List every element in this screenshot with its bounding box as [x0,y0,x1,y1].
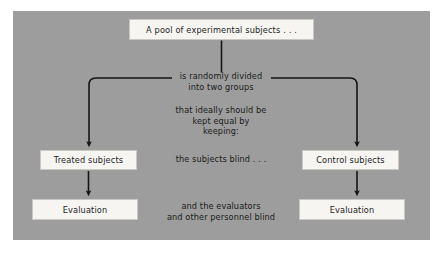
label-kept-equal-line3: keeping: [0,126,442,137]
label-kept-equal-line2: kept equal by [0,116,442,127]
label-kept-equal-line1: that ideally should be [0,105,442,116]
label-subjects-blind-line1: the subjects blind . . . [0,154,442,165]
flowchart-figure: A pool of experimental subjects . . . is… [0,0,442,254]
label-evaluators-blind-line1: and the evaluators [0,201,442,212]
box-subject-pool: A pool of experimental subjects . . . [129,19,314,40]
label-subjects-blind: the subjects blind . . . [0,154,442,165]
label-evaluators-blind-line2: and other personnel blind [0,212,442,223]
box-subject-pool-label: A pool of experimental subjects . . . [146,25,297,35]
label-randomly-divided-line1: is randomly divided [0,71,442,82]
label-randomly-divided-line2: into two groups [0,82,442,93]
label-kept-equal: that ideally should be kept equal by kee… [0,105,442,137]
label-randomly-divided: is randomly divided into two groups [0,71,442,92]
label-evaluators-blind: and the evaluators and other personnel b… [0,201,442,222]
